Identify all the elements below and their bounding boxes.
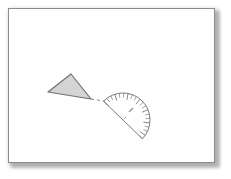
protractor <box>104 93 150 139</box>
shaded-triangle <box>48 74 91 99</box>
screenshot-root <box>0 0 231 179</box>
protractor-body <box>104 93 150 139</box>
figure-canvas <box>0 0 231 179</box>
dashed-connector-line <box>91 99 104 101</box>
triangle-and-protractor-diagram <box>0 0 231 179</box>
